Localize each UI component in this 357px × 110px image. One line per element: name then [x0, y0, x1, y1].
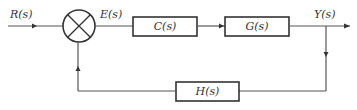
feedback-down-arrow-icon — [324, 52, 329, 57]
feedback-label: H(s) — [195, 85, 220, 98]
input-arrow-icon — [32, 24, 37, 29]
block-diagram: R(s) E(s) C(s) G(s) Y(s) H(s) — [0, 0, 357, 110]
controller-label: C(s) — [154, 20, 177, 33]
input-label: R(s) — [9, 8, 33, 21]
diagram-canvas: R(s) E(s) C(s) G(s) Y(s) H(s) — [0, 0, 357, 110]
plant-label: G(s) — [245, 20, 268, 33]
error-label: E(s) — [99, 8, 122, 21]
summing-junction-icon — [63, 10, 95, 42]
feedback-up-arrow-icon — [76, 66, 81, 71]
c-to-g-arrow-icon — [219, 24, 224, 29]
output-label: Y(s) — [314, 8, 336, 21]
output-arrow-icon — [344, 24, 350, 29]
